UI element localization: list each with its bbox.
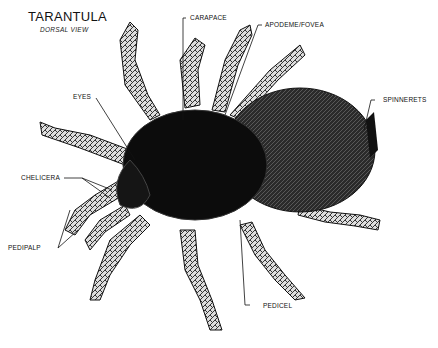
label-pedipalp: PEDIPALP — [8, 244, 41, 251]
label-chelicera: CHELICERA — [21, 174, 60, 181]
label-eyes: EYES — [73, 93, 91, 100]
label-apodeme-fovea: APODEME/FOVEA — [265, 21, 324, 28]
diagram-subtitle: DORSAL VIEW — [40, 26, 88, 33]
tarantula-illustration — [0, 0, 438, 348]
label-pedicel: PEDICEL — [263, 302, 292, 309]
diagram-title: TARANTULA — [28, 9, 107, 24]
label-carapace: CARAPACE — [190, 14, 227, 21]
label-spinnerets: SPINNERETS — [383, 96, 427, 103]
